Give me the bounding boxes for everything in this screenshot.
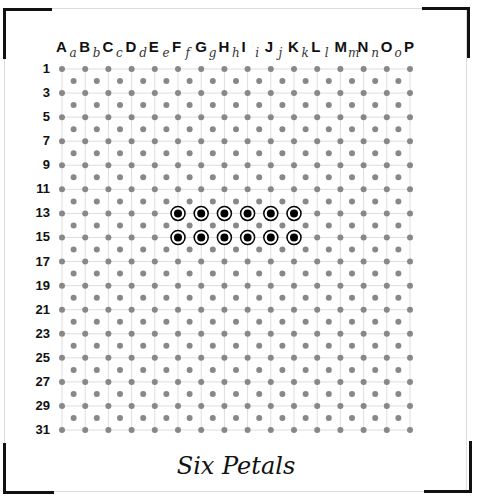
grid-pin (314, 66, 320, 72)
grid-pin (407, 259, 413, 265)
grid-pin (59, 307, 65, 313)
offset-pin (372, 415, 378, 421)
grid-pin (384, 283, 390, 289)
offset-pin (395, 174, 401, 180)
grid-pin (361, 186, 367, 192)
offset-pin (71, 415, 77, 421)
column-label: O (381, 38, 393, 55)
offset-pin (303, 391, 309, 397)
sub-column-label: f (186, 46, 190, 60)
grid-pin (59, 259, 65, 265)
grid-pin (152, 114, 158, 120)
grid-pin (129, 138, 135, 144)
offset-pin (395, 295, 401, 301)
grid-pin (384, 186, 390, 192)
grid-pin (129, 379, 135, 385)
grid-pin (384, 355, 390, 361)
grid-pin (291, 355, 297, 361)
grid-pin (245, 403, 251, 409)
offset-pin (140, 78, 146, 84)
grid-pin (152, 427, 158, 433)
offset-pin (349, 319, 355, 325)
grid-pin (361, 283, 367, 289)
offset-pin (395, 150, 401, 156)
offset-pin (279, 271, 285, 277)
offset-pin (117, 222, 123, 228)
offset-pin (187, 391, 193, 397)
grid-pin (175, 186, 181, 192)
grid-pin (175, 90, 181, 96)
grid-pin (245, 259, 251, 265)
offset-pin (279, 102, 285, 108)
offset-pin (140, 174, 146, 180)
offset-pin (210, 391, 216, 397)
grid-pin (337, 259, 343, 265)
offset-pin (372, 222, 378, 228)
grid-pin (361, 331, 367, 337)
offset-pin (233, 415, 239, 421)
column-label: F (172, 38, 181, 55)
offset-pin (71, 126, 77, 132)
offset-pin (395, 198, 401, 204)
grid-pin (198, 283, 204, 289)
offset-pin (326, 150, 332, 156)
offset-pin (163, 367, 169, 373)
offset-pin (163, 222, 169, 228)
offset-pin (117, 319, 123, 325)
offset-pin (233, 102, 239, 108)
grid-pin (129, 307, 135, 313)
offset-pin (372, 271, 378, 277)
offset-pin (349, 415, 355, 421)
sub-column-label: c (116, 46, 123, 60)
offset-pin (303, 271, 309, 277)
grid-pin (129, 427, 135, 433)
row-label: 31 (10, 422, 50, 437)
grid-pin (245, 283, 251, 289)
offset-pin (256, 198, 262, 204)
grid-pin (105, 331, 111, 337)
grid-pin (245, 379, 251, 385)
grid-pin (407, 114, 413, 120)
grid-pin (82, 355, 88, 361)
grid-pin (175, 307, 181, 313)
row-label: 19 (10, 278, 50, 293)
offset-pin (94, 247, 100, 253)
grid-pin (245, 66, 251, 72)
grid-pin (82, 162, 88, 168)
grid-pin (198, 427, 204, 433)
grid-pin (384, 307, 390, 313)
grid-pin (314, 186, 320, 192)
grid-pin (152, 403, 158, 409)
offset-pin (372, 367, 378, 373)
grid-pin (361, 259, 367, 265)
offset-pin (94, 222, 100, 228)
grid-pin (59, 379, 65, 385)
offset-pin (279, 126, 285, 132)
offset-pin (349, 247, 355, 253)
grid-pin (384, 331, 390, 337)
grid-pin (361, 114, 367, 120)
offset-pin (256, 415, 262, 421)
offset-pin (303, 319, 309, 325)
grid-pin (337, 427, 343, 433)
offset-pin (326, 343, 332, 349)
grid-pin (268, 162, 274, 168)
grid-pin (129, 186, 135, 192)
offset-pin (256, 78, 262, 84)
grid-pin (152, 210, 158, 216)
grid-pin (407, 186, 413, 192)
grid-pin (407, 138, 413, 144)
column-label: K (288, 38, 299, 55)
offset-pin (71, 295, 77, 301)
column-label: I (242, 38, 246, 55)
sub-column-label: o (394, 46, 401, 60)
offset-pin (279, 150, 285, 156)
grid-pin (59, 355, 65, 361)
grid-pin (82, 259, 88, 265)
offset-pin (233, 367, 239, 373)
offset-pin (163, 319, 169, 325)
grid-pin (105, 379, 111, 385)
offset-pin (140, 415, 146, 421)
offset-pin (349, 391, 355, 397)
grid-pin (175, 66, 181, 72)
